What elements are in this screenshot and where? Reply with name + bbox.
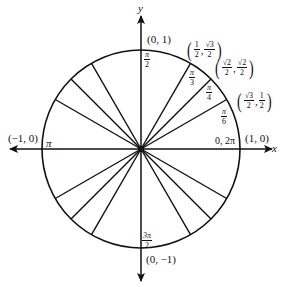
angle-pi-label: π: [46, 138, 52, 149]
angle-pi-4-label: π 4: [206, 84, 212, 102]
angle-pi-6-label: π 6: [221, 108, 227, 126]
point-left-label: (−1, 0): [8, 133, 38, 144]
coord-pi-6-x: √32: [244, 92, 254, 110]
origin-dot: [138, 146, 144, 152]
y-axis-label: y: [138, 3, 143, 14]
coord-pi-6-y: 12: [259, 92, 265, 110]
point-top-label: (0, 1): [147, 34, 171, 45]
coord-pi-6-label: ( √32 , 12 ): [236, 91, 272, 111]
angle-pi-2-label: π 2: [144, 51, 150, 69]
coord-pi-3-x: 12: [194, 41, 200, 59]
angle-0-2pi-label: 0, 2π: [215, 136, 235, 146]
point-bottom-label: (0, −1): [146, 254, 176, 265]
angle-3pi-2-label: 3π 2: [142, 232, 152, 250]
point-right-label: (1, 0): [245, 133, 269, 144]
angle-pi-3-label: π 3: [189, 69, 195, 87]
coord-pi-3-y: √32: [204, 41, 214, 59]
coord-pi-4-x: √22: [222, 59, 232, 77]
unit-circle-graphic: [0, 0, 282, 287]
coord-pi-4-y: √22: [237, 59, 247, 77]
coord-pi-4-label: ( √22 , √22 ): [214, 58, 255, 78]
x-axis-label: x: [272, 143, 277, 154]
